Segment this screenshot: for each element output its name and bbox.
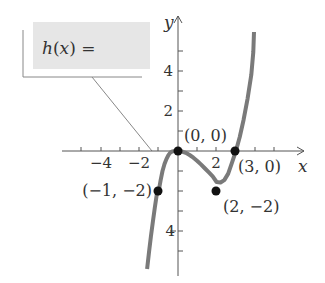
- y-tick-label: 4: [165, 222, 175, 240]
- x-tick-label: 2: [211, 154, 221, 172]
- callout-leader-line: [92, 77, 152, 151]
- x-tick-label: −2: [128, 154, 150, 172]
- point-0-0: [174, 147, 183, 156]
- point-label: (3, 0): [238, 157, 281, 176]
- marked-points: [154, 147, 240, 196]
- point-2-neg2: [212, 187, 221, 196]
- callout-text: h(x) =: [42, 38, 95, 58]
- point-neg1-neg2: [154, 187, 163, 196]
- y-axis-label: y: [163, 12, 174, 32]
- point-label: (−1, −2): [82, 181, 152, 200]
- x-axis-label: x: [298, 156, 308, 176]
- y-axis: 4 2 4 y: [163, 12, 183, 276]
- point-label: (2, −2): [223, 197, 279, 216]
- graph-canvas: h(x) = −4 −2 2 x: [0, 0, 325, 283]
- y-tick-label: 4: [163, 62, 173, 80]
- callout: h(x) =: [23, 22, 152, 151]
- y-tick-label: 2: [163, 102, 173, 120]
- point-label: (0, 0): [184, 126, 227, 145]
- point-3-0: [231, 147, 240, 156]
- x-tick-label: −4: [90, 154, 112, 172]
